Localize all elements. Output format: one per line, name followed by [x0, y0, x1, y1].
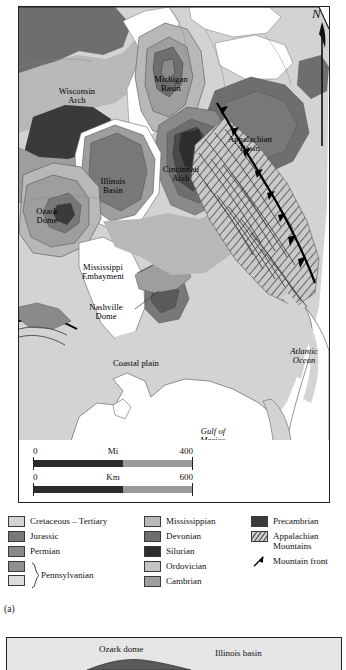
geologic-map: WisconsinArch MichiganBasin AppalachianB…: [18, 6, 330, 442]
map-graphic: [19, 7, 329, 441]
legend-swatch-precambrian: [251, 516, 268, 527]
legend-brace-icon: [31, 562, 40, 589]
legend-swatch-group-pennsylvanian: [8, 561, 30, 589]
scale-bar-miles: 0 Mi 400: [33, 446, 193, 467]
panel-a-caption: (a): [4, 604, 15, 614]
legend-symbol-mountain-front: [251, 556, 268, 567]
legend-swatch-pennsylvanian-upper: [8, 561, 25, 572]
legend-label-ordovician: Ordovician: [166, 561, 207, 572]
scale-km-unit: Km: [106, 472, 120, 482]
figure-panel-b: Ozark dome Illinois basin: [6, 637, 342, 670]
legend-label-jurassic: Jurassic: [30, 531, 59, 542]
legend-column-1: Cretaceous – Tertiary Jurassic Permian P…: [8, 516, 107, 589]
legend-swatch-cretaceous-tertiary: [8, 516, 25, 527]
scale-km-segment-dark: [33, 486, 123, 493]
scale-km-segment-light: [123, 486, 193, 493]
legend-swatch-silurian: [144, 546, 161, 557]
scale-km-tick-right: [192, 483, 193, 496]
legend-label-cambrian: Cambrian: [166, 576, 202, 587]
legend-column-2: Mississippian Devonian Silurian Ordovici…: [144, 516, 216, 591]
legend-swatch-jurassic: [8, 531, 25, 542]
legend-swatch-ordovician: [144, 561, 161, 572]
scale-km-max: 600: [180, 472, 194, 482]
cross-section-label-ozark-dome: Ozark dome: [99, 644, 143, 654]
map-legend: Cretaceous – Tertiary Jurassic Permian P…: [8, 516, 340, 602]
scale-miles-tick-left: [33, 457, 34, 470]
legend-swatch-cambrian: [144, 576, 161, 587]
scale-miles-segment-dark: [33, 460, 123, 467]
legend-item-appalachian-mountains: Appalachian Mountains: [251, 531, 346, 553]
legend-label-devonian: Devonian: [166, 531, 201, 542]
legend-item-precambrian: Precambrian: [251, 516, 346, 529]
legend-label-cretaceous-tertiary: Cretaceous – Tertiary: [30, 516, 107, 527]
legend-swatch-permian: [8, 546, 25, 557]
legend-item-mississippian: Mississippian: [144, 516, 216, 529]
legend-item-permian: Permian: [8, 546, 107, 559]
scale-miles-min: 0: [33, 446, 38, 456]
scale-bar-kilometers: 0 Km 600: [33, 472, 193, 493]
legend-item-mountain-front: Mountain front: [251, 556, 346, 578]
legend-label-precambrian: Precambrian: [273, 516, 318, 527]
cross-section-graphic: [7, 638, 341, 670]
scale-km-min: 0: [33, 472, 38, 482]
legend-label-silurian: Silurian: [166, 546, 195, 557]
legend-label-permian: Permian: [30, 546, 60, 557]
legend-swatch-pennsylvanian-lower: [8, 575, 25, 586]
scale-miles-max: 400: [180, 446, 194, 456]
legend-label-mountain-front: Mountain front: [273, 556, 346, 566]
figure-panel-a: WisconsinArch MichiganBasin AppalachianB…: [0, 0, 346, 620]
legend-item-cambrian: Cambrian: [144, 576, 216, 589]
legend-label-pennsylvanian: Pennsylvanian: [41, 570, 94, 581]
legend-item-devonian: Devonian: [144, 531, 216, 544]
legend-swatch-devonian: [144, 531, 161, 542]
legend-item-ordovician: Ordovician: [144, 561, 216, 574]
legend-item-silurian: Silurian: [144, 546, 216, 559]
legend-column-3: Precambrian Appalachian Mountains: [251, 516, 346, 580]
scale-miles-tick-right: [192, 457, 193, 470]
scale-bars: 0 Mi 400 0 Km 600: [18, 440, 330, 503]
legend-swatch-mississippian: [144, 516, 161, 527]
legend-label-appalachian-mountains: Appalachian Mountains: [273, 531, 346, 551]
scale-km-tick-left: [33, 483, 34, 496]
scale-miles-unit: Mi: [108, 446, 119, 456]
scale-miles-segment-light: [123, 460, 193, 467]
legend-label-mississippian: Mississippian: [166, 516, 216, 527]
legend-item-pennsylvanian: Pennsylvanian: [8, 561, 107, 589]
north-arrow-icon: [305, 8, 339, 148]
legend-item-cretaceous-tertiary: Cretaceous – Tertiary: [8, 516, 107, 529]
cross-section-label-illinois-basin: Illinois basin: [215, 648, 262, 658]
legend-swatch-appalachian-mountains: [251, 531, 268, 542]
legend-item-jurassic: Jurassic: [8, 531, 107, 544]
